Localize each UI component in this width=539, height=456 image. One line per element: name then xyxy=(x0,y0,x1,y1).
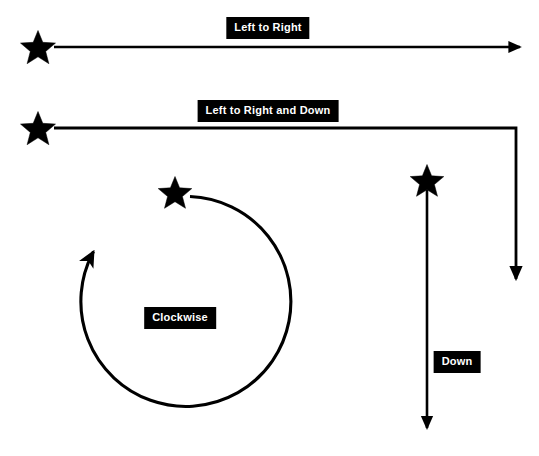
star-icon xyxy=(21,31,56,64)
star-icon xyxy=(158,177,192,209)
path-down xyxy=(410,165,444,429)
label-clockwise: Clockwise xyxy=(144,307,216,329)
label-down: Down xyxy=(434,351,481,373)
diagram-canvas: Left to Right Left to Right and Down Clo… xyxy=(0,0,539,456)
path-clockwise xyxy=(81,177,291,407)
motion-direction-diagram xyxy=(0,0,539,456)
label-left-to-right-and-down: Left to Right and Down xyxy=(198,100,339,122)
star-icon xyxy=(21,112,56,145)
label-left-to-right: Left to Right xyxy=(226,17,309,39)
path-left-to-right-and-down xyxy=(21,112,517,280)
arrow-arc-clockwise xyxy=(81,197,291,407)
arrow-line-left-to-right-and-down xyxy=(54,128,516,279)
